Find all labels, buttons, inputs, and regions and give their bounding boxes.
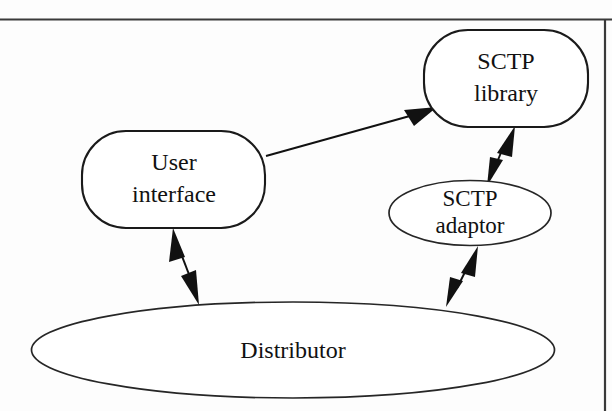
sctp-library-shape (424, 30, 588, 127)
diagram-svg: SCTP library User interface SCTP adaptor… (0, 0, 612, 411)
user-interface-shape (82, 131, 265, 228)
user-interface-label-line2: interface (132, 181, 216, 207)
sctp-library-label-line1: SCTP (477, 48, 534, 74)
node-sctp-library[interactable]: SCTP library (424, 30, 588, 127)
sctp-adaptor-label-line2: adaptor (436, 213, 505, 238)
sctp-adaptor-label-line1: SCTP (443, 186, 498, 211)
figure-canvas: SCTP library User interface SCTP adaptor… (0, 0, 612, 411)
edge-ui-to-distributor (169, 228, 199, 305)
user-interface-label-line1: User (151, 149, 196, 175)
node-sctp-adaptor[interactable]: SCTP adaptor (389, 181, 551, 246)
edge-library-to-adaptor (487, 126, 515, 186)
node-distributor[interactable]: Distributor (32, 302, 555, 398)
distributor-label: Distributor (240, 337, 345, 363)
edge-ui-to-library (266, 107, 437, 156)
edge-adaptor-to-distributor (446, 246, 478, 307)
node-user-interface[interactable]: User interface (82, 131, 265, 228)
sctp-library-label-line2: library (474, 80, 538, 106)
